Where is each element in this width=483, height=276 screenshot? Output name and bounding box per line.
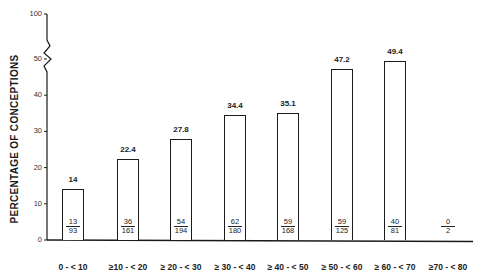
x-category-label: ≥70 - < 80 bbox=[418, 262, 478, 272]
fraction-denominator: 125 bbox=[327, 227, 357, 235]
fraction-denominator: 168 bbox=[273, 227, 303, 235]
bar-value-label: 34.4 bbox=[215, 101, 255, 110]
y-tick-label: 100 bbox=[22, 9, 42, 18]
y-tick-label: 20 bbox=[22, 163, 42, 172]
fraction-denominator: 2 bbox=[433, 227, 463, 235]
bar-value-label: 27.8 bbox=[161, 125, 201, 134]
bar-fraction: 4081 bbox=[380, 218, 410, 235]
y-axis-line-with-break bbox=[44, 14, 51, 240]
y-tick-label: 0 bbox=[22, 235, 42, 244]
x-category-label: 0 - < 10 bbox=[43, 262, 103, 272]
x-category-label: ≥ 20 - < 30 bbox=[151, 262, 211, 272]
bar bbox=[331, 69, 353, 240]
fraction-denominator: 93 bbox=[58, 227, 88, 235]
x-axis-line bbox=[47, 240, 473, 242]
bar-fraction: 02 bbox=[433, 218, 463, 235]
bar-value-label: 35.1 bbox=[268, 99, 308, 108]
bar-fraction: 36161 bbox=[113, 218, 143, 235]
bar-value-label: 47.2 bbox=[322, 55, 362, 64]
fraction-denominator: 161 bbox=[113, 227, 143, 235]
x-category-label: ≥ 40 - < 50 bbox=[258, 262, 318, 272]
y-tick-label: 50 bbox=[22, 54, 42, 63]
bar-fraction: 1393 bbox=[58, 218, 88, 235]
x-category-label: ≥10 - < 20 bbox=[98, 262, 158, 272]
x-category-label: ≥ 60 - < 70 bbox=[365, 262, 425, 272]
bar-chart: PERCENTAGE OF CONCEPTIONS 01020304050100… bbox=[0, 0, 483, 276]
y-tick-label: 10 bbox=[22, 199, 42, 208]
x-category-label: ≥ 30 - < 40 bbox=[205, 262, 265, 272]
fraction-denominator: 180 bbox=[220, 227, 250, 235]
bar-value-label: 22.4 bbox=[108, 145, 148, 154]
y-tick-label: 30 bbox=[22, 126, 42, 135]
bar-value-label: 14 bbox=[53, 175, 93, 184]
bar-value-label: 49.4 bbox=[375, 47, 415, 56]
bar bbox=[384, 61, 406, 240]
bar-fraction: 54194 bbox=[166, 218, 196, 235]
fraction-denominator: 194 bbox=[166, 227, 196, 235]
bar-fraction: 62180 bbox=[220, 218, 250, 235]
bar-fraction: 59125 bbox=[327, 218, 357, 235]
y-tick-label: 40 bbox=[22, 90, 42, 99]
fraction-denominator: 81 bbox=[380, 227, 410, 235]
x-category-label: ≥ 50 - < 60 bbox=[312, 262, 372, 272]
bar-fraction: 59168 bbox=[273, 218, 303, 235]
